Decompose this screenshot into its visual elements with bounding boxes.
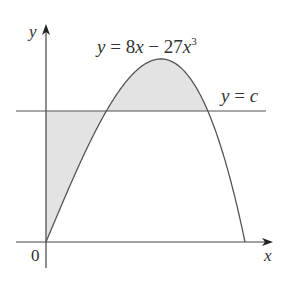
- y-axis-label: y: [27, 22, 37, 41]
- shaded-region-top: [106, 59, 207, 111]
- curve-equation-label: y = 8x − 27x3: [95, 35, 197, 57]
- shaded-region-left: [46, 111, 106, 242]
- x-axis-label: x: [263, 246, 272, 265]
- area-diagram: y x 0 y = 8x − 27x3 y = c: [0, 0, 288, 285]
- line-c-label: y = c: [219, 85, 259, 106]
- origin-label: 0: [31, 246, 40, 265]
